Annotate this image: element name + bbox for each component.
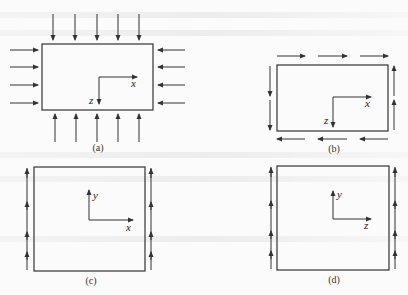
bottom-compression-arrows: [55, 114, 139, 142]
axis-label-y-c: y: [93, 190, 98, 201]
axis-label-x-a: x: [131, 78, 136, 89]
axis-label-z-b: z: [324, 115, 328, 126]
caption-d: (d): [328, 274, 340, 285]
left-compression-arrows: [10, 50, 38, 103]
axis-label-z-a: z: [89, 95, 93, 106]
caption-b: (b): [328, 143, 340, 154]
right-compression-arrows: [158, 50, 185, 103]
panel-c: [27, 167, 151, 271]
axis-label-x-b: x: [365, 98, 370, 109]
axis-label-z-d: z: [364, 220, 368, 231]
caption-a: (a): [92, 142, 103, 153]
diagram-svg: [0, 0, 408, 295]
axis-label-x-c: x: [126, 222, 131, 233]
panel-d: [271, 166, 395, 270]
axis-label-y-d: y: [337, 189, 342, 200]
top-compression-arrows: [53, 14, 139, 40]
caption-c: (c): [85, 275, 96, 286]
figure-canvas: x z x z x y z y (a) (b) (c) (d): [0, 0, 408, 295]
panel-a: [10, 14, 185, 142]
panel-b: [270, 56, 394, 139]
